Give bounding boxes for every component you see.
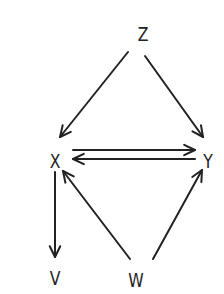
edge-y-to-x: [73, 154, 195, 164]
edge-z-to-y: [145, 56, 203, 137]
node-y: Y: [203, 151, 213, 171]
edges-layer: [0, 0, 224, 294]
edge-x-to-v: [50, 172, 60, 257]
edge-x-to-y: [73, 145, 195, 155]
edge-w-to-x: [63, 171, 130, 259]
node-x: X: [50, 151, 61, 171]
edge-w-to-y: [153, 170, 202, 259]
node-z: Z: [138, 24, 149, 44]
node-v: V: [50, 268, 61, 288]
edge-z-to-x: [60, 52, 128, 137]
causal-graph-diagram: Z X Y V W: [0, 0, 224, 294]
node-w: W: [128, 270, 143, 290]
